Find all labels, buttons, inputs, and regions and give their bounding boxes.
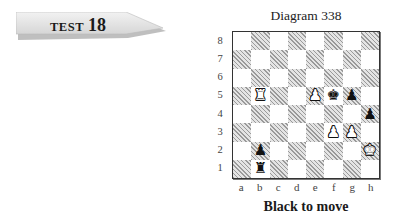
square-b5: ♜ <box>251 87 269 105</box>
rank-label: 6 <box>214 71 226 82</box>
square-c5 <box>270 87 288 105</box>
square-b3 <box>251 123 269 141</box>
square-e8 <box>306 32 324 50</box>
square-c4 <box>270 105 288 123</box>
white-pawn-icon: ♟ <box>308 88 321 103</box>
square-h1 <box>361 160 379 178</box>
square-a1 <box>233 160 251 178</box>
square-c8 <box>270 32 288 50</box>
square-g4 <box>343 105 361 123</box>
square-h6 <box>361 69 379 87</box>
square-c1 <box>270 160 288 178</box>
square-h7 <box>361 50 379 68</box>
square-d2 <box>288 142 306 160</box>
square-f2 <box>324 142 342 160</box>
square-f7 <box>324 50 342 68</box>
black-rook-icon: ♜ <box>254 161 267 176</box>
square-a6 <box>233 69 251 87</box>
square-g7 <box>343 50 361 68</box>
square-e3 <box>306 123 324 141</box>
square-d6 <box>288 69 306 87</box>
square-f5: ♚ <box>324 87 342 105</box>
rank-label: 5 <box>214 89 226 100</box>
square-c6 <box>270 69 288 87</box>
square-d5 <box>288 87 306 105</box>
square-g3: ♟ <box>343 123 361 141</box>
square-g6 <box>343 69 361 87</box>
square-c2 <box>270 142 288 160</box>
banner-word: TEST <box>50 20 84 34</box>
square-f4 <box>324 105 342 123</box>
white-pawn-icon: ♟ <box>345 125 358 140</box>
square-g2 <box>343 142 361 160</box>
square-a8 <box>233 32 251 50</box>
banner-number: 18 <box>88 15 106 35</box>
square-e2 <box>306 142 324 160</box>
test-banner: TEST18 <box>16 12 166 40</box>
square-h8 <box>361 32 379 50</box>
file-label: h <box>362 181 381 195</box>
square-h4: ♟ <box>361 105 379 123</box>
rank-label: 3 <box>214 126 226 137</box>
black-pawn-icon: ♟ <box>345 88 358 103</box>
file-labels: abcdefgh <box>232 181 380 195</box>
rank-label: 7 <box>214 53 226 64</box>
square-c7 <box>270 50 288 68</box>
rank-label: 8 <box>214 35 226 46</box>
square-d7 <box>288 50 306 68</box>
square-d1 <box>288 160 306 178</box>
square-e6 <box>306 69 324 87</box>
square-b7 <box>251 50 269 68</box>
square-d4 <box>288 105 306 123</box>
square-g5: ♟ <box>343 87 361 105</box>
file-label: d <box>288 181 307 195</box>
file-label: g <box>343 181 362 195</box>
square-a5 <box>233 87 251 105</box>
black-pawn-icon: ♟ <box>363 107 376 122</box>
square-f1 <box>324 160 342 178</box>
file-label: c <box>269 181 288 195</box>
square-f3: ♟ <box>324 123 342 141</box>
square-g1 <box>343 160 361 178</box>
rank-labels: 87654321 <box>214 31 226 177</box>
square-b2: ♟ <box>251 142 269 160</box>
white-rook-icon: ♜ <box>254 88 267 103</box>
square-h2: ♚ <box>361 142 379 160</box>
square-h5 <box>361 87 379 105</box>
diagram-caption: Black to move <box>232 199 380 215</box>
square-e4 <box>306 105 324 123</box>
square-b8 <box>251 32 269 50</box>
square-h3 <box>361 123 379 141</box>
square-d3 <box>288 123 306 141</box>
white-king-icon: ♚ <box>363 143 376 158</box>
black-king-icon: ♚ <box>327 88 340 103</box>
file-label: a <box>232 181 251 195</box>
rank-label: 2 <box>214 144 226 155</box>
square-e5: ♟ <box>306 87 324 105</box>
square-f8 <box>324 32 342 50</box>
file-label: e <box>306 181 325 195</box>
square-a7 <box>233 50 251 68</box>
square-b6 <box>251 69 269 87</box>
square-g8 <box>343 32 361 50</box>
file-label: f <box>325 181 344 195</box>
rank-label: 1 <box>214 162 226 173</box>
white-pawn-icon: ♟ <box>327 125 340 140</box>
square-b1: ♜ <box>251 160 269 178</box>
square-b4 <box>251 105 269 123</box>
black-pawn-icon: ♟ <box>254 143 267 158</box>
chess-board: ♜♟♚♟♟♟♟♟♚♜ <box>232 31 380 179</box>
file-label: b <box>251 181 270 195</box>
rank-label: 4 <box>214 108 226 119</box>
square-a3 <box>233 123 251 141</box>
square-d8 <box>288 32 306 50</box>
square-a2 <box>233 142 251 160</box>
diagram-title: Diagram 338 <box>232 8 380 24</box>
square-e1 <box>306 160 324 178</box>
square-e7 <box>306 50 324 68</box>
square-a4 <box>233 105 251 123</box>
square-f6 <box>324 69 342 87</box>
square-c3 <box>270 123 288 141</box>
